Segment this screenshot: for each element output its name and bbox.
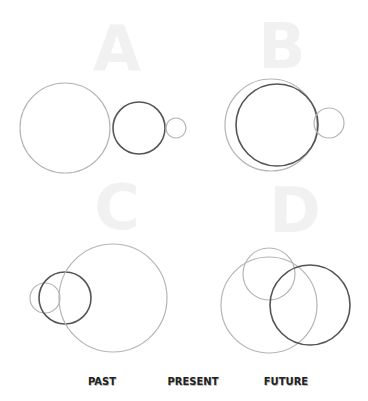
future-circle [243, 248, 295, 300]
legend: PAST PAST PRESENT PRESENT FUTURE FUTURE [88, 376, 309, 388]
panel-letter-a: A [93, 12, 141, 85]
panel-c [30, 244, 167, 352]
legend-future: FUTURE [264, 376, 309, 387]
panel-letters: A B C D [93, 10, 321, 247]
past-circle [20, 83, 110, 173]
present-circle [236, 84, 318, 166]
panel-b [225, 79, 344, 171]
panel-letter-d: D [269, 174, 320, 247]
past-circle [221, 257, 317, 353]
past-circle [30, 283, 60, 313]
panel-letter-b: B [258, 10, 305, 83]
future-circle [59, 244, 167, 352]
time-circles-diagram: A B C D PAST PAST PRESENT PRESENT FUTURE… [0, 0, 368, 401]
present-circle [270, 265, 350, 345]
panel-d [221, 248, 350, 353]
future-circle [166, 118, 186, 138]
present-circle [113, 102, 165, 154]
legend-past: PAST [88, 376, 116, 387]
present-circle [39, 272, 91, 324]
panel-a [20, 83, 186, 173]
legend-present: PRESENT [167, 376, 218, 387]
panel-letter-c: C [94, 171, 140, 244]
